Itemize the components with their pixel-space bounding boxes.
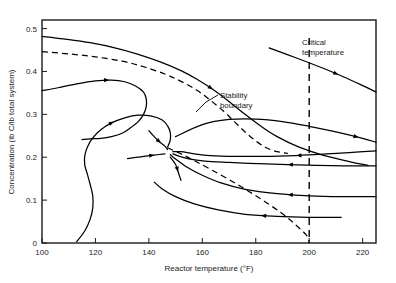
y-tick-label: 0.5 <box>26 25 38 34</box>
curve-incoming-from-right-lowest <box>154 182 341 217</box>
y-tick-label: 0.1 <box>26 196 38 205</box>
critical-temperature-label-line2: temperature <box>302 48 344 57</box>
x-tick-label: 180 <box>249 248 263 257</box>
x-tick-label: 200 <box>303 248 317 257</box>
stability-boundary-label-line2: boundary <box>220 101 253 110</box>
direction-arrow <box>333 71 339 75</box>
curve-incoming-from-right-upper <box>173 151 376 157</box>
trajectory-curves <box>42 36 376 242</box>
phase-plane-figure: 100120140160180200220 00.10.20.30.40.5 C… <box>0 0 396 283</box>
x-tick-label: 100 <box>35 248 49 257</box>
x-axis-title: Reactor temperature (°F) <box>164 264 253 273</box>
y-axis-title: Concentration (lb C/lb total system) <box>7 69 16 194</box>
curve-saddle-left-in <box>128 154 165 159</box>
y-axis-ticks: 00.10.20.30.40.5 <box>26 25 47 248</box>
y-tick-label: 0 <box>33 239 38 248</box>
critical-temperature-label-line1: Critical <box>302 38 326 47</box>
direction-arrow <box>296 153 301 157</box>
direction-arrow <box>108 122 114 126</box>
x-tick-label: 220 <box>356 248 370 257</box>
stability-boundary-label-line1: Stability <box>220 91 247 100</box>
curve-stability-boundary-branch <box>176 119 376 142</box>
y-tick-label: 0.3 <box>26 110 38 119</box>
y-tick-label: 0.2 <box>26 153 38 162</box>
phase-plane-chart: 100120140160180200220 00.10.20.30.40.5 C… <box>0 0 396 283</box>
direction-arrow <box>288 193 293 197</box>
curve-inward-spiral <box>77 115 171 242</box>
direction-arrow <box>288 163 293 167</box>
direction-arrow <box>175 166 179 172</box>
x-axis-ticks: 100120140160180200220 <box>35 238 370 257</box>
direction-arrow <box>104 78 109 82</box>
x-tick-label: 160 <box>196 248 210 257</box>
curve-saddle-lower-out <box>170 157 181 180</box>
direction-arrow <box>261 214 266 218</box>
curve-loop-trajectory <box>42 80 147 140</box>
x-tick-label: 120 <box>89 248 103 257</box>
direction-arrow <box>207 85 212 90</box>
y-tick-label: 0.4 <box>26 67 38 76</box>
x-tick-label: 140 <box>142 248 156 257</box>
